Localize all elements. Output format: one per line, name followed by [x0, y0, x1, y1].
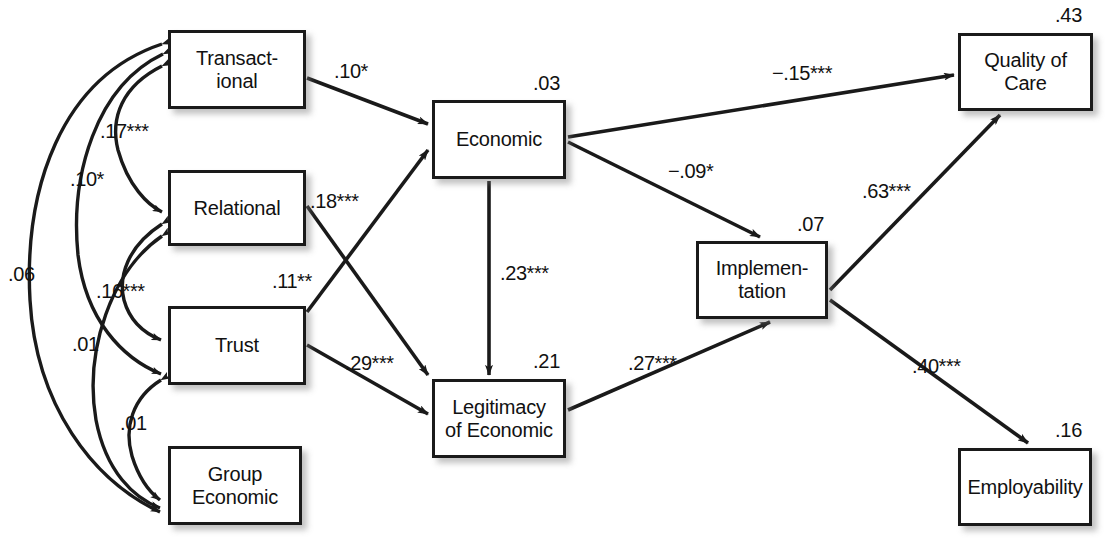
- corr-label-trust-group: .01: [120, 412, 147, 435]
- corr-arc-transactional-group: [29, 44, 162, 512]
- path-diagram: Transact- ional Relational Trust Group E…: [0, 0, 1112, 553]
- path-label-trust-to-legitimacy: .29***: [345, 352, 394, 375]
- r2-label-legitimacy-of-economic: .21: [533, 350, 560, 373]
- path-label-economic-to-legitimacy: .23***: [500, 262, 549, 285]
- corr-arc-trust-group: [129, 380, 161, 500]
- corr-label-relational-group: .01: [72, 333, 99, 356]
- path-label-transactional-to-economic: .10*: [334, 60, 368, 83]
- corr-label-relational-trust: .16***: [96, 280, 145, 303]
- node-legitimacy-of-economic[interactable]: Legitimacy of Economic: [432, 379, 566, 458]
- node-group-economic[interactable]: Group Economic: [168, 446, 302, 525]
- node-trust[interactable]: Trust: [168, 306, 306, 385]
- r2-label-implementation: .07: [797, 213, 824, 236]
- node-transactional[interactable]: Transact- ional: [168, 30, 306, 109]
- node-relational-label: Relational: [190, 197, 285, 220]
- path-label-trust-to-economic: .11**: [272, 270, 312, 293]
- r2-label-economic: .03: [533, 72, 560, 95]
- node-legitimacy-of-economic-label: Legitimacy of Economic: [441, 396, 557, 442]
- node-employability-label: Employability: [963, 476, 1086, 499]
- path-label-economic-to-quality: −.15***: [772, 62, 832, 85]
- path-label-implementation-to-employability: .40***: [912, 355, 961, 378]
- corr-label-transactional-trust: .10*: [70, 168, 104, 191]
- node-transactional-label: Transact- ional: [192, 47, 282, 93]
- edge-economic-to-implementation: [568, 142, 760, 237]
- node-trust-label: Trust: [211, 334, 263, 357]
- edge-economic-to-quality: [568, 75, 954, 137]
- r2-label-employability: .16: [1055, 419, 1082, 442]
- corr-arc-relational-group: [93, 236, 162, 508]
- corr-arc-transactional-trust: [77, 54, 163, 374]
- corr-label-transactional-group: .06: [8, 263, 35, 286]
- corr-label-transactional-relational: .17***: [100, 120, 149, 143]
- node-quality-of-care-label: Quality of Care: [980, 49, 1070, 95]
- node-group-economic-label: Group Economic: [188, 463, 282, 509]
- edge-transactional-to-economic: [307, 78, 428, 124]
- node-economic-label: Economic: [452, 128, 546, 151]
- node-employability[interactable]: Employability: [958, 448, 1092, 526]
- path-label-legitimacy-to-implementation: .27***: [628, 352, 677, 375]
- node-quality-of-care[interactable]: Quality of Care: [958, 33, 1093, 111]
- r2-label-quality-of-care: .43: [1055, 4, 1082, 27]
- node-implementation-label: Implemen- tation: [712, 257, 813, 303]
- path-label-economic-to-implementation: −.09*: [668, 160, 713, 183]
- node-relational[interactable]: Relational: [168, 170, 306, 246]
- node-economic[interactable]: Economic: [432, 100, 566, 179]
- path-label-implementation-to-quality: .63***: [862, 180, 911, 203]
- node-implementation[interactable]: Implemen- tation: [696, 241, 828, 319]
- edge-implementation-to-quality: [830, 115, 1000, 290]
- path-label-relational-to-legitimacy: .18***: [310, 190, 359, 213]
